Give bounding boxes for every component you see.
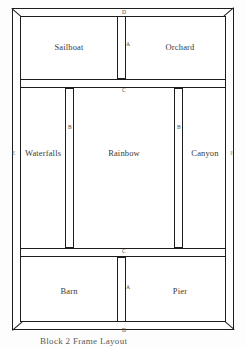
region-label-barn: Barn (60, 286, 77, 296)
member-letter-a-bottom: A (126, 284, 130, 290)
member-letter-e-left: E (12, 150, 16, 156)
member-post-b-right (174, 88, 183, 248)
region-label-waterfalls: Waterfalls (25, 148, 61, 158)
region-label-sailboat: Sailboat (54, 42, 83, 52)
member-post-b-left (65, 88, 74, 248)
member-letter-b-right: B (177, 124, 181, 130)
region-label-orchard: Orchard (166, 42, 195, 52)
member-letter-d-top: D (122, 9, 126, 15)
diagram-caption: Block 2 Frame Layout (40, 336, 127, 346)
member-letter-d-bottom: D (122, 327, 126, 333)
region-label-canyon: Canyon (191, 148, 218, 158)
diagram-canvas: Sailboat Orchard Waterfalls Rainbow Cany… (0, 0, 245, 347)
member-letter-c-top: C (122, 87, 126, 93)
member-post-a-top (117, 16, 126, 79)
member-letter-a-top: A (126, 41, 130, 47)
region-label-pier: Pier (173, 286, 187, 296)
member-letter-e-right: E (230, 150, 234, 156)
member-letter-c-bottom: C (122, 248, 126, 254)
region-label-rainbow: Rainbow (108, 148, 140, 158)
member-post-a-bottom (117, 257, 126, 322)
member-letter-b-left: B (68, 124, 72, 130)
